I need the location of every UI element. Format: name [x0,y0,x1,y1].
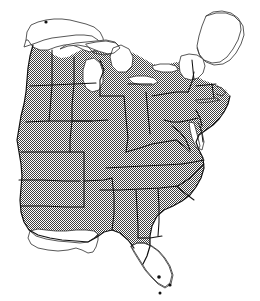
locality-dot-northern-minnesota [44,20,47,23]
locality-dot-florida-keys [159,292,162,295]
lake-ontario [152,64,178,72]
unshaded-northern-new-england [179,54,205,80]
locality-dot-south-florida [157,275,161,279]
locality-dot-southeast-florida [168,283,171,286]
map-svg [0,0,260,301]
lake-huron [110,45,133,72]
unshaded-south-florida [131,243,172,287]
range-map-figure [0,0,260,301]
